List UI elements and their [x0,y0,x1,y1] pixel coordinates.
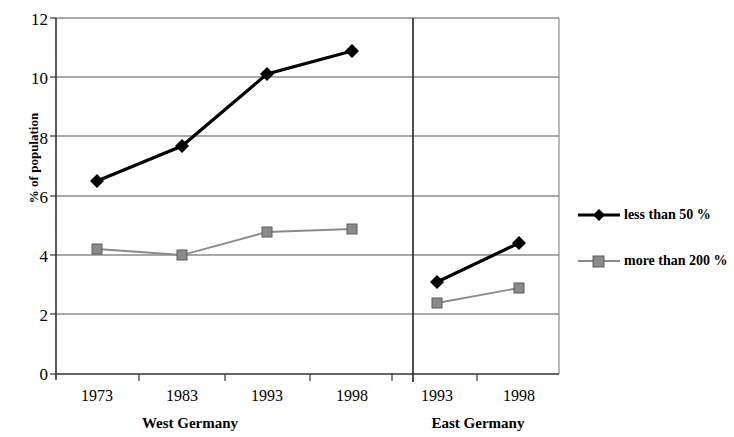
legend-item-less-than-50[interactable]: less than 50 % [578,206,734,226]
x-tick-label-west-1983: 1983 [147,388,217,404]
data-point-marker [514,283,524,293]
data-point-marker [90,174,104,188]
x-tick-label-west-1993: 1993 [232,388,302,404]
x-tick-label-west-1998: 1998 [317,388,387,404]
legend-label-less-than-50: less than 50 % [624,206,734,223]
data-point-marker [177,250,187,260]
data-point-marker [430,275,444,289]
series-more-than-200 [92,224,524,308]
legend-key-square-icon [578,254,620,268]
chart-container: % of population 12 10 8 6 4 2 0 [0,0,734,437]
data-point-marker [92,244,102,254]
y-tick-marks [50,18,56,374]
legend: less than 50 % more than 200 % [578,206,734,298]
data-point-marker [432,298,442,308]
data-point-marker [512,236,526,250]
x-tick-label-west-1973: 1973 [62,388,132,404]
legend-item-more-than-200[interactable]: more than 200 % [578,252,734,272]
group-label-east-germany: East Germany [378,415,578,431]
legend-label-more-than-200: more than 200 % [624,252,734,269]
data-point-marker [347,224,357,234]
x-tick-label-east-1998: 1998 [484,388,554,404]
group-label-west-germany: West Germany [90,415,290,431]
legend-key-diamond-icon [578,208,620,222]
data-point-marker [262,227,272,237]
data-point-marker [345,44,359,58]
x-tick-label-east-1993: 1993 [402,388,472,404]
x-tick-marks [139,374,477,381]
